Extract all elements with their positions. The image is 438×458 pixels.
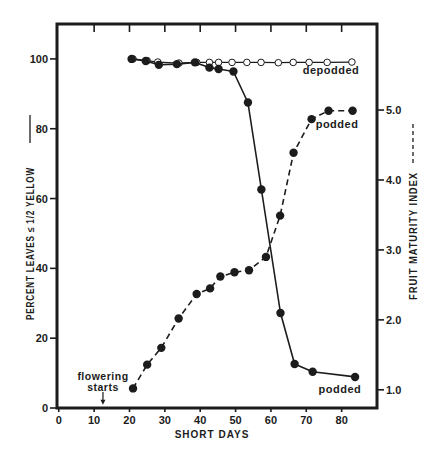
filled-circle-marker <box>206 284 214 292</box>
filled-circle-marker <box>348 107 356 115</box>
y-right-axis-label-text: FRUIT MATURITY INDEX <box>408 172 419 300</box>
filled-circle-marker <box>324 107 332 115</box>
open-circle-marker <box>258 59 265 66</box>
y-left-tick-label: 80 <box>36 123 48 135</box>
open-circle-marker <box>290 59 297 66</box>
filled-circle-marker <box>257 185 265 193</box>
filled-circle-marker <box>129 384 137 392</box>
y-left-axis-label-text: PERCENT LEAVES ≤ 1/2 YELLOW <box>25 167 36 320</box>
annotation-text: starts <box>87 381 119 393</box>
filled-circle-marker <box>230 268 238 276</box>
y-right-tick-label: 3.0 <box>386 244 401 256</box>
filled-circle-marker <box>308 367 316 375</box>
filled-circle-marker <box>143 360 151 368</box>
annotation-label-podded-index: podded <box>316 118 359 130</box>
filled-circle-marker <box>244 98 252 106</box>
filled-circle-marker <box>157 344 165 352</box>
x-tick-label: 0 <box>56 414 62 426</box>
y-left-tick-label: 100 <box>30 53 48 65</box>
y-left-tick-label: 20 <box>36 332 48 344</box>
x-tick-label: 10 <box>88 414 100 426</box>
filled-circle-marker <box>351 373 359 381</box>
filled-circle-marker <box>192 290 200 298</box>
filled-circle-marker <box>174 314 182 322</box>
filled-circle-marker <box>216 272 224 280</box>
filled-circle-marker <box>289 148 297 156</box>
filled-circle-marker <box>245 266 253 274</box>
chart-canvas: 010203040506070800204060801001.02.03.04.… <box>0 0 438 458</box>
filled-circle-marker <box>127 55 135 63</box>
filled-circle-marker <box>307 115 315 123</box>
annotation-label-depodded: depodded <box>303 64 360 76</box>
x-tick-label: 50 <box>229 414 241 426</box>
filled-circle-marker <box>205 63 213 71</box>
x-tick-label: 40 <box>194 414 206 426</box>
y-left-tick-label: 60 <box>36 193 48 205</box>
chart-figure: 010203040506070800204060801001.02.03.04.… <box>0 0 438 458</box>
filled-circle-marker <box>262 253 270 261</box>
y-right-tick-label: 5.0 <box>386 104 401 116</box>
x-tick-label: 30 <box>159 414 171 426</box>
filled-circle-marker <box>173 60 181 68</box>
y-right-tick-label: 4.0 <box>386 174 401 186</box>
open-circle-marker <box>215 59 222 66</box>
open-circle-marker <box>244 59 251 66</box>
filled-circle-marker <box>290 360 298 368</box>
x-tick-label: 20 <box>123 414 135 426</box>
filled-circle-marker <box>229 67 237 75</box>
filled-circle-marker <box>276 211 284 219</box>
y-left-tick-label: 0 <box>42 402 48 414</box>
filled-circle-marker <box>155 61 163 69</box>
filled-circle-marker <box>142 57 150 65</box>
filled-circle-marker <box>276 309 284 317</box>
filled-circle-marker <box>214 65 222 73</box>
x-tick-label: 60 <box>265 414 277 426</box>
y-left-tick-label: 40 <box>36 262 48 274</box>
x-axis-label: SHORT DAYS <box>175 429 250 440</box>
y-right-tick-label: 2.0 <box>386 314 401 326</box>
filled-circle-marker <box>191 58 199 66</box>
open-circle-marker <box>229 59 236 66</box>
x-tick-label: 80 <box>336 414 348 426</box>
annotation-label-podded-leaves: podded <box>319 383 362 395</box>
open-circle-marker <box>275 59 282 66</box>
y-right-tick-label: 1.0 <box>386 384 401 396</box>
x-tick-label: 70 <box>300 414 312 426</box>
